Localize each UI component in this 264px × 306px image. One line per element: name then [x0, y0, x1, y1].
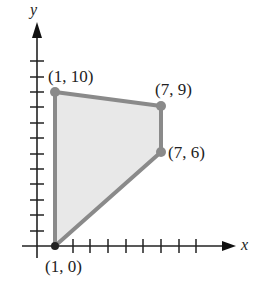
vertex-1-10 — [50, 87, 60, 97]
vertex-1-0 — [51, 242, 59, 250]
vertex-label-1-0: (1, 0) — [45, 257, 82, 276]
vertex-label-7-6: (7, 6) — [168, 143, 205, 162]
vertex-7-9 — [156, 101, 166, 111]
y-axis-label: y — [28, 1, 38, 19]
x-axis-arrow-icon — [222, 241, 236, 251]
y-axis-arrow-icon — [32, 22, 42, 38]
feasible-region-graph: y x (1, 10) (7, 9) (7, 6) (1, 0) — [0, 0, 264, 306]
feasible-region — [55, 92, 161, 246]
vertex-label-7-9: (7, 9) — [155, 80, 192, 99]
x-axis-label: x — [240, 236, 248, 253]
vertex-7-6 — [156, 147, 166, 157]
vertex-label-1-10: (1, 10) — [48, 67, 93, 86]
